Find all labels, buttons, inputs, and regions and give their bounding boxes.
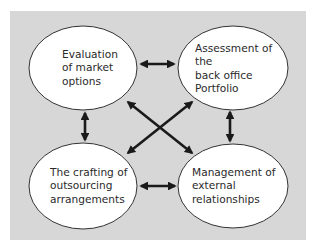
node-management-label: Management of external relationships: [192, 166, 275, 206]
diagram-canvas: [0, 0, 318, 249]
node-crafting-label: The crafting of outsourcing arrangements: [50, 166, 127, 206]
node-assessment-label: Assessment of the back office Portfolio: [195, 42, 272, 96]
node-evaluation-label: Evaluation of market options: [62, 48, 118, 88]
